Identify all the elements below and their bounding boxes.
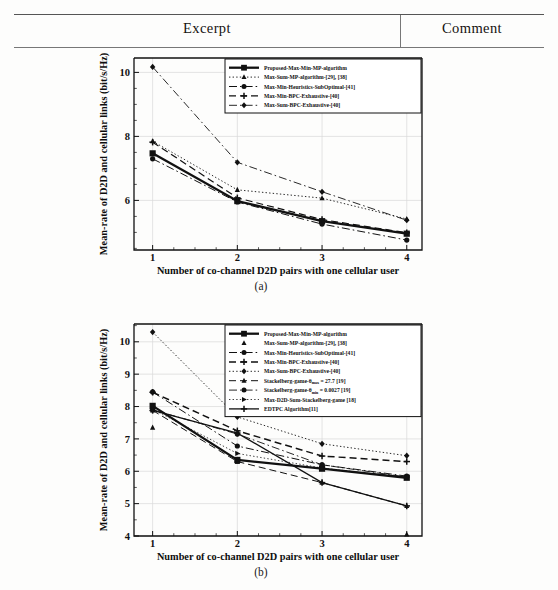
header-rule-bottom [14,47,544,48]
series-2 [150,156,409,242]
x-axis-title: Number of co-channel D2D pairs with one … [157,551,400,562]
chart-a-canvas: 68101234Number of co-channel D2D pairs w… [96,52,426,284]
series-polyline [153,142,407,233]
legend: Proposed-Max-Min-MP-algorithmMax-Sum-MP-… [225,325,421,417]
legend-marker [242,350,247,355]
legend-label: EDTPC Algorithm[11] [264,406,318,412]
y-tick-label: 10 [120,336,131,347]
data-point [235,443,240,448]
data-point [319,189,324,195]
series-polyline [153,410,407,505]
legend-label: Max-Min-BPC-Exhaustive-[40] [264,359,339,365]
x-tick-label: 4 [404,252,410,263]
y-axis-title: Mean-rate of D2D and cellular links (bit… [98,53,110,255]
x-tick-label: 1 [150,538,155,549]
legend-label: Max-Sum-MP-algorithm-[29], [38] [264,340,347,346]
legend-label: Max-Min-Heuristics-SubOptimal-[41] [264,350,355,356]
y-tick-label: 5 [125,498,130,509]
data-point [150,156,155,161]
legend-label: Max-D2D-Sum-Stackelberg-game [18] [264,397,356,403]
y-axis-title: Mean-rate of D2D and cellular links (bit… [98,329,110,531]
data-point [404,458,411,465]
y-tick-label: 8 [125,131,130,142]
legend-marker [242,84,247,89]
data-point [150,425,155,430]
plot-a-wrapper: 68101234Number of co-channel D2D pairs w… [96,52,426,284]
y-tick-label: 7 [125,434,130,445]
legend-label: Proposed-Max-Min-MP-algorithm [264,65,347,71]
data-point [404,217,409,223]
series-polyline [153,153,407,233]
y-tick-label: 4 [125,531,131,542]
column-header-excerpt: Excerpt [14,20,400,37]
data-point [235,187,240,192]
data-point [235,159,240,165]
figure-a-caption: (a) [96,280,426,292]
legend-marker [242,388,247,393]
data-point [404,237,409,242]
data-point [319,479,326,486]
header-rule-top [14,14,544,15]
x-tick-label: 2 [235,538,240,549]
legend-marker [241,331,247,337]
legend-label: Proposed-Max-Min-MP-algorithm [264,331,347,337]
y-tick-label: 6 [125,195,130,206]
x-tick-label: 4 [404,538,410,549]
plot-b-wrapper: 456789101234Number of co-channel D2D pai… [96,318,426,570]
x-tick-label: 1 [150,252,155,263]
legend-label: Max-Sum-BPC-Exhaustive-[40] [264,102,340,108]
chart-b-canvas: 456789101234Number of co-channel D2D pai… [96,318,426,570]
x-tick-label: 3 [319,252,324,263]
y-tick-label: 10 [120,67,131,78]
data-point [150,329,155,335]
series-8 [149,407,410,509]
series-0 [150,150,410,237]
data-point [150,150,156,156]
legend: Proposed-Max-Min-MP-algorithmMax-Sum-MP-… [225,59,421,113]
table-header: Excerpt Comment [14,14,544,48]
data-point [319,453,326,460]
x-axis-title: Number of co-channel D2D pairs with one … [157,265,400,276]
legend-label: Max-Sum-BPC-Exhaustive-[40] [264,368,340,374]
y-tick-label: 9 [125,369,130,380]
data-point [149,389,156,396]
series-3 [149,139,410,236]
legend-label: Max-Min-BPC-Exhaustive-[40] [264,93,339,99]
x-tick-label: 3 [319,538,324,549]
figure-a: 68101234Number of co-channel D2D pairs w… [96,52,426,300]
data-point [235,451,240,456]
data-point [149,139,156,146]
y-tick-label: 8 [125,401,130,412]
figure-b-caption: (b) [96,566,426,578]
series-1 [150,425,409,537]
x-tick-label: 2 [235,252,240,263]
page-root: Excerpt Comment 68101234Number of co-cha… [0,0,558,590]
legend-label: Max-Sum-MP-algorithm-[29], [38] [264,74,347,80]
data-point [319,441,324,447]
y-tick-label: 6 [125,466,130,477]
figure-b: 456789101234Number of co-channel D2D pai… [96,318,426,586]
legend-label: Max-Min-Heuristics-SubOptimal-[41] [264,84,355,90]
legend-marker [241,65,247,71]
data-point [404,453,409,459]
column-header-comment: Comment [400,20,544,37]
